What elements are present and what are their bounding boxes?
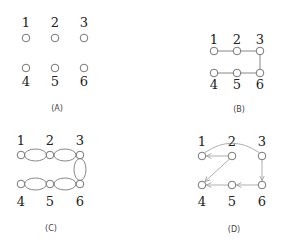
- node-label-1: 1: [210, 32, 218, 47]
- node-1: [210, 47, 218, 55]
- node-2: [228, 152, 236, 160]
- double-edge-2-3: [54, 149, 76, 161]
- panel-caption: (D): [228, 225, 240, 234]
- node-label-4: 4: [17, 194, 25, 209]
- node-4: [17, 180, 25, 188]
- node-6: [76, 180, 84, 188]
- node-label-4: 4: [22, 74, 30, 89]
- node-1: [17, 151, 25, 159]
- node-label-6: 6: [258, 194, 266, 209]
- node-label-5: 5: [233, 77, 241, 92]
- node-label-5: 5: [46, 194, 54, 209]
- node-label-3: 3: [80, 15, 88, 30]
- double-edge-1-2: [25, 149, 47, 161]
- node-6: [258, 181, 266, 189]
- node-label-5: 5: [51, 74, 59, 89]
- node-5: [51, 64, 59, 72]
- double-edge-6-5: [54, 178, 76, 190]
- panel-b: 1 2 3 4 5 6 (B): [210, 32, 264, 114]
- node-label-6: 6: [76, 194, 84, 209]
- node-6: [256, 69, 264, 77]
- directed-edge-2-4: [205, 159, 230, 182]
- node-2: [233, 47, 241, 55]
- node-label-4: 4: [198, 194, 206, 209]
- node-1: [198, 152, 206, 160]
- node-4: [210, 69, 218, 77]
- node-3: [80, 34, 88, 42]
- panel-caption: (A): [51, 104, 63, 113]
- node-2: [46, 151, 54, 159]
- panel-d: 1 2 3 4 5 6 (D): [198, 134, 266, 234]
- node-label-5: 5: [228, 194, 236, 209]
- double-edge-3-6: [74, 159, 86, 181]
- node-label-6: 6: [256, 77, 264, 92]
- node-6: [80, 64, 88, 72]
- node-3: [258, 152, 266, 160]
- node-3: [76, 151, 84, 159]
- node-5: [46, 180, 54, 188]
- panel-caption: (C): [45, 224, 57, 233]
- node-label-3: 3: [76, 133, 84, 148]
- node-label-2: 2: [51, 15, 59, 30]
- node-label-1: 1: [198, 134, 206, 149]
- node-5: [228, 181, 236, 189]
- node-2: [51, 34, 59, 42]
- panel-c: 1 2 3 4 5 6 (C): [17, 133, 86, 233]
- panel-a: 1 2 3 4 5 6 (A): [22, 15, 88, 113]
- node-label-4: 4: [210, 77, 218, 92]
- node-label-2: 2: [228, 134, 236, 149]
- diagram-canvas: 1 2 3 4 5 6 (A) 1 2 3 4 5 6 (B): [0, 0, 283, 245]
- panel-caption: (B): [233, 105, 245, 114]
- node-3: [256, 47, 264, 55]
- node-label-2: 2: [233, 32, 241, 47]
- node-label-2: 2: [46, 133, 54, 148]
- node-label-6: 6: [80, 74, 88, 89]
- node-4: [198, 181, 206, 189]
- node-5: [233, 69, 241, 77]
- node-label-3: 3: [256, 32, 264, 47]
- node-4: [22, 64, 30, 72]
- double-edge-5-4: [25, 178, 47, 190]
- node-label-1: 1: [17, 133, 25, 148]
- node-label-1: 1: [22, 15, 30, 30]
- node-label-3: 3: [258, 134, 266, 149]
- node-1: [22, 34, 30, 42]
